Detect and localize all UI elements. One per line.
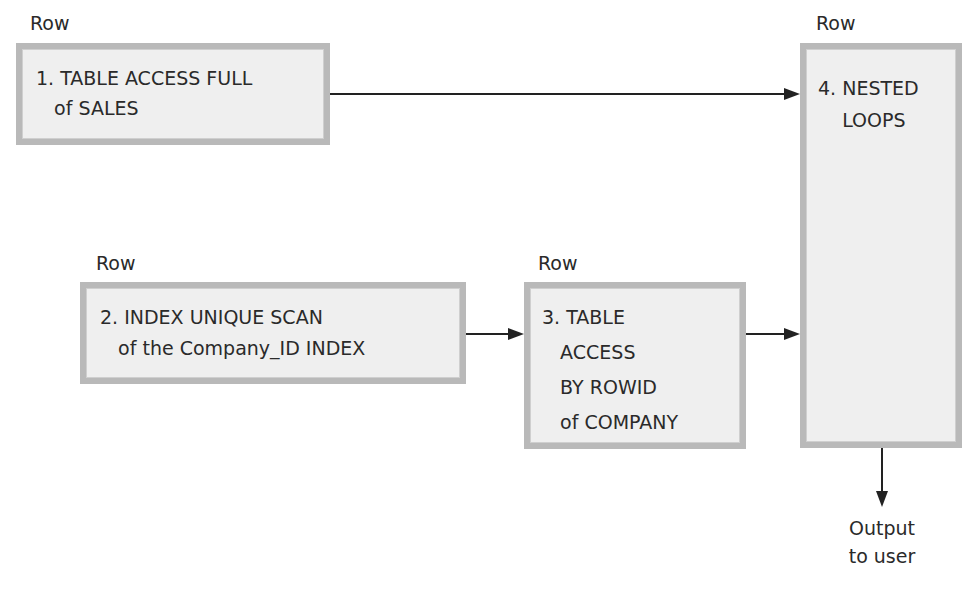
node-table-access-by-rowid: 3. TABLE ACCESS BY ROWID of COMPANY (524, 282, 746, 449)
node-4-line-1: 4. NESTED (818, 73, 919, 103)
node-1-line-1: 1. TABLE ACCESS FULL (36, 63, 252, 93)
output-line-1: Output (832, 514, 932, 542)
node-3-line-2: ACCESS (542, 337, 635, 367)
node-1-line-2: of SALES (36, 93, 139, 123)
output-label: Output to user (832, 514, 932, 570)
node-nested-loops: 4. NESTED LOOPS (800, 43, 962, 448)
node-index-unique-scan: 2. INDEX UNIQUE SCAN of the Company_ID I… (80, 282, 466, 384)
row-label-3: Row (538, 252, 578, 274)
node-3-line-1: 3. TABLE (542, 302, 625, 332)
arrowhead-down-icon (876, 491, 888, 507)
arrowhead-right-icon (784, 328, 800, 340)
node-3-line-4: of COMPANY (542, 407, 678, 437)
edge-4-to-output (881, 448, 883, 492)
edge-2-to-3 (466, 333, 508, 335)
row-label-1: Row (30, 12, 70, 34)
node-4-line-2: LOOPS (818, 105, 906, 135)
node-2-line-1: 2. INDEX UNIQUE SCAN (100, 302, 323, 332)
arrowhead-right-icon (508, 328, 524, 340)
arrowhead-right-icon (784, 88, 800, 100)
edge-1-to-4 (330, 93, 784, 95)
row-label-4: Row (816, 12, 856, 34)
node-table-access-full-sales: 1. TABLE ACCESS FULL of SALES (16, 43, 330, 145)
node-3-line-3: BY ROWID (542, 372, 657, 402)
output-line-2: to user (832, 542, 932, 570)
edge-3-to-4 (746, 333, 784, 335)
node-2-line-2: of the Company_ID INDEX (100, 333, 365, 363)
row-label-2: Row (96, 252, 136, 274)
